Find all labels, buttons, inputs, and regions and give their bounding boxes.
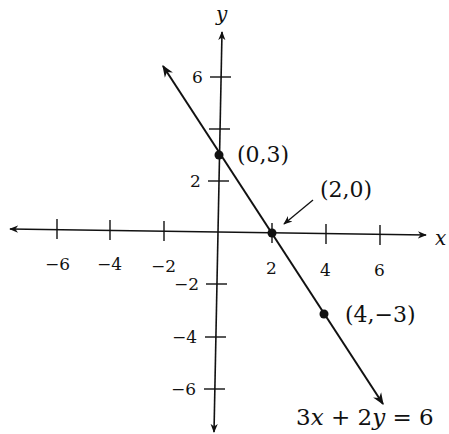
x-tick-label-p6: 6 (374, 260, 385, 280)
y-tick-label-p2: 2 (190, 171, 201, 191)
equation-var-x: x (311, 404, 324, 430)
x-tick-label-m2: −2 (151, 256, 176, 276)
equation-part-3: 3 (296, 404, 311, 430)
y-axis-label: y (215, 2, 228, 26)
x-axis-label: x (435, 226, 446, 250)
point-0-3 (215, 151, 224, 160)
x-tick-label-p4: 4 (320, 260, 331, 280)
coordinate-plane: y x −6 −4 −2 2 4 6 6 2 −2 −4 −6 (0,3) (2… (0, 0, 449, 434)
y-tick-label-m2: −2 (174, 274, 199, 294)
point-label-0-3: (0,3) (237, 142, 289, 167)
y-tick-label-m4: −4 (172, 327, 197, 347)
point-label-2-0: (2,0) (320, 177, 372, 202)
equation-part-eq-6: = 6 (385, 404, 434, 430)
equation-var-y: y (371, 404, 386, 430)
point-2-0 (268, 229, 277, 238)
point-4-m3 (320, 310, 329, 319)
x-tick-label-m4: −4 (97, 254, 122, 274)
y-tick-label-p6: 6 (192, 67, 203, 87)
equation-label: 3x + 2y = 6 (296, 404, 434, 430)
equation-part-plus-2: + 2 (324, 404, 373, 430)
y-tick-label-m6: −6 (171, 379, 196, 399)
point-label-4-m3: (4,−3) (345, 302, 416, 327)
x-tick-label-p2: 2 (266, 258, 277, 278)
x-tick-label-m6: −6 (45, 254, 70, 274)
pointer-arrow-icon (284, 200, 313, 224)
